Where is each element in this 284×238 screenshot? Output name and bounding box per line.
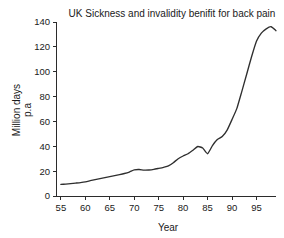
chart-title: UK Sickness and invalidity benifit for b… [69,8,276,19]
x-tick-label: 90 [227,202,238,213]
line-chart: UK Sickness and invalidity benifit for b… [0,0,284,238]
y-axis: 020406080100120140 [34,16,56,201]
x-tick-group: 556065707580859095 [56,196,262,213]
x-tick-label: 80 [178,202,189,213]
chart-figure: UK Sickness and invalidity benifit for b… [0,0,284,238]
chart-title-group: UK Sickness and invalidity benifit for b… [69,8,276,19]
x-tick-label: 95 [251,202,262,213]
y-tick-label: 140 [34,16,50,27]
y-axis-label-line2: p.a [22,103,33,117]
x-tick-label: 85 [202,202,213,213]
y-tick-label: 60 [39,116,50,127]
y-tick-label: 80 [39,91,50,102]
data-series-line [61,27,276,185]
y-axis-label-group: Million days p.a [11,84,33,136]
x-axis: 556065707580859095 [56,196,276,213]
x-axis-label: Year [158,222,179,233]
y-axis-label-line1: Million days [11,84,22,136]
y-tick-label: 0 [45,190,50,201]
x-tick-label: 60 [80,202,91,213]
x-tick-label: 70 [129,202,140,213]
y-tick-label: 120 [34,41,50,52]
x-tick-label: 75 [153,202,164,213]
y-tick-group: 020406080100120140 [34,16,56,201]
y-tick-label: 40 [39,141,50,152]
y-tick-label: 100 [34,66,50,77]
x-tick-label: 55 [56,202,67,213]
y-tick-label: 20 [39,166,50,177]
x-tick-label: 65 [104,202,115,213]
